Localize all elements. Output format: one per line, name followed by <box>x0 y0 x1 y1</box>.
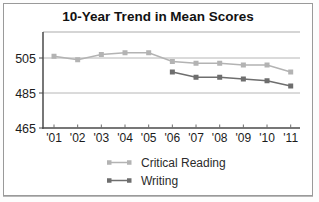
x-tick-label: '10 <box>259 131 275 145</box>
data-point <box>265 63 270 68</box>
data-point <box>194 75 199 80</box>
data-point <box>123 50 128 55</box>
data-point <box>52 54 57 59</box>
data-point <box>170 70 175 75</box>
data-point <box>194 61 199 66</box>
data-point <box>217 75 222 80</box>
data-point <box>75 57 80 62</box>
legend-label-writing: Writing <box>141 174 178 188</box>
data-point <box>170 59 175 64</box>
legend-label-critical-reading: Critical Reading <box>141 156 226 170</box>
series-line-writing <box>172 72 290 86</box>
legend-item-writing: Writing <box>107 173 226 188</box>
y-tick-label: 465 <box>15 122 36 136</box>
x-tick-label: '02 <box>70 131 86 145</box>
data-point <box>146 50 151 55</box>
data-point <box>99 52 104 57</box>
data-point <box>288 84 293 89</box>
x-tick-label: '01 <box>46 131 62 145</box>
data-point <box>217 61 222 66</box>
writing-marker-icon <box>107 176 133 185</box>
data-point <box>288 70 293 75</box>
x-tick-label: '07 <box>188 131 204 145</box>
data-point <box>265 78 270 83</box>
legend-item-critical-reading: Critical Reading <box>107 155 226 170</box>
x-tick-label: '05 <box>141 131 157 145</box>
y-tick-label: 485 <box>15 87 36 101</box>
x-tick-label: '03 <box>94 131 110 145</box>
x-tick-label: '09 <box>236 131 252 145</box>
data-point <box>241 77 246 82</box>
critical-reading-marker-icon <box>107 158 133 167</box>
x-tick-label: '11 <box>283 131 298 145</box>
x-tick-label: '04 <box>117 131 133 145</box>
x-tick-label: '06 <box>165 131 181 145</box>
y-tick-label: 505 <box>15 52 36 66</box>
x-tick-label: '08 <box>212 131 228 145</box>
legend: Critical Reading Writing <box>107 155 226 188</box>
chart-frame: 10-Year Trend in Mean Scores 505485465'0… <box>3 3 313 196</box>
chart-card: 10-Year Trend in Mean Scores 505485465'0… <box>0 0 319 202</box>
data-point <box>241 63 246 68</box>
